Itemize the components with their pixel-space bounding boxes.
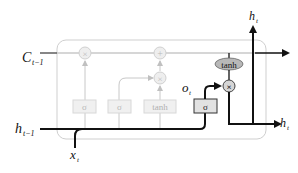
svg-text:t: t (189, 89, 192, 97)
lstm-diagram: × + × σ σ tanh σ tanh × C (0, 0, 298, 173)
svg-text:tanh: tanh (152, 102, 168, 112)
h-prev-line (40, 113, 205, 129)
svg-text:tanh: tanh (221, 60, 237, 70)
label-h-t-right: h t (280, 116, 290, 132)
svg-text:+: + (157, 48, 163, 59)
input-multiply-op: × (154, 72, 166, 84)
svg-text:t: t (287, 124, 290, 132)
svg-text:x: x (69, 147, 76, 162)
cell-add-op: + (154, 47, 166, 59)
svg-text:σ: σ (117, 102, 122, 112)
label-x-t: x t (69, 147, 80, 164)
label-o-t: o t (182, 80, 192, 97)
svg-text:t−1: t−1 (32, 58, 44, 67)
svg-text:σ: σ (203, 102, 208, 112)
svg-text:t: t (256, 17, 259, 25)
output-gate-to-mul-line (205, 86, 220, 99)
forget-multiply-op: × (79, 47, 91, 59)
input-gate-box: σ (108, 100, 131, 113)
svg-text:t−1: t−1 (23, 129, 35, 138)
output-multiply-op: × (223, 80, 235, 92)
svg-text:σ: σ (82, 102, 87, 112)
svg-text:×: × (226, 82, 231, 92)
svg-text:h: h (249, 9, 255, 23)
label-h-prev: h t−1 (15, 121, 35, 138)
h-out-line (229, 92, 280, 124)
cell-tanh-op: tanh (215, 58, 243, 70)
svg-text:o: o (182, 80, 189, 95)
svg-text:t: t (77, 156, 80, 164)
svg-text:h: h (280, 116, 286, 130)
forget-gate-box: σ (73, 100, 96, 113)
svg-text:h: h (15, 121, 22, 136)
output-gate-box: σ (194, 99, 217, 113)
candidate-gate-box: tanh (144, 100, 176, 113)
svg-text:×: × (82, 49, 87, 59)
svg-text:C: C (22, 50, 32, 65)
label-h-t-top: h t (249, 9, 259, 25)
svg-text:×: × (157, 74, 162, 84)
